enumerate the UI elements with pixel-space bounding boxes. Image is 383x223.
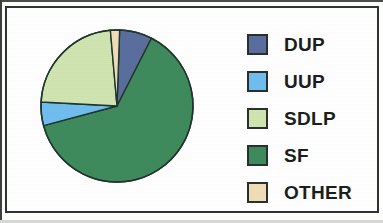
legend-item-uup[interactable]: UUP [247,63,377,100]
scan-edge-top [0,0,383,2]
legend-item-sf[interactable]: SF [247,137,377,174]
legend-item-other[interactable]: OTHER [247,174,377,211]
scan-edge-bottom [0,220,383,223]
legend-item-dup[interactable]: DUP [247,26,377,63]
legend-label-uup: UUP [284,72,325,91]
legend-label-sf: SF [284,146,309,165]
legend-swatch-sdlp [247,108,268,129]
scan-edge-left [0,0,2,223]
chart-screenshot: DUP UUP SDLP SF OTHER [0,0,383,223]
chart-frame: DUP UUP SDLP SF OTHER [5,6,379,213]
legend-label-other: OTHER [284,183,352,202]
plot-area: DUP UUP SDLP SF OTHER [7,8,377,211]
legend-swatch-other [247,182,268,203]
legend-swatch-uup [247,71,268,92]
legend-label-dup: DUP [284,35,325,54]
legend: DUP UUP SDLP SF OTHER [247,26,377,211]
pie-chart-svg [37,26,197,186]
legend-swatch-dup [247,34,268,55]
pie-slice-sdlp[interactable] [41,30,117,106]
legend-swatch-sf [247,145,268,166]
legend-item-sdlp[interactable]: SDLP [247,100,377,137]
pie-chart [37,26,197,186]
legend-label-sdlp: SDLP [284,109,336,128]
